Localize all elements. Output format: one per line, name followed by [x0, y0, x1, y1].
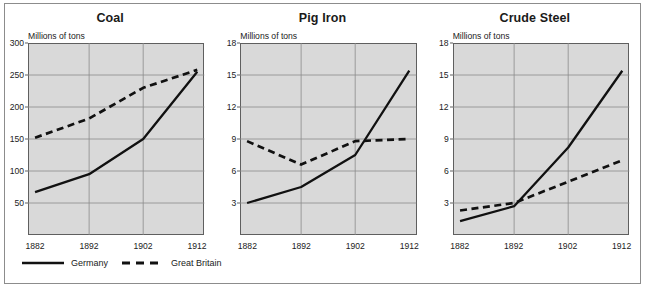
y-tick-label: 250 — [10, 70, 24, 80]
legend: Germany Great Britain — [22, 258, 222, 268]
x-tick-label: 1902 — [133, 241, 152, 251]
series-line-germany — [247, 71, 409, 203]
y-tick-label: 9 — [444, 134, 449, 144]
legend-line-solid-icon — [22, 261, 64, 265]
y-tick-label: 18 — [227, 38, 237, 48]
series-line-great-britain — [247, 139, 409, 165]
y-tick-label: 50 — [14, 198, 24, 208]
y-tick-label: 9 — [232, 134, 237, 144]
chart-panel-coal: Coal Millions of tons 501001502002503001… — [4, 3, 216, 243]
y-axis-unit-label-pig-iron: Millions of tons — [240, 31, 297, 41]
x-tick-label: 1912 — [187, 241, 206, 251]
plot-wrap-coal: 501001502002503001882189219021912 — [28, 43, 204, 235]
x-tick-label: 1882 — [238, 241, 257, 251]
y-tick-label: 3 — [232, 198, 237, 208]
y-tick-label: 6 — [444, 166, 449, 176]
plot-wrap-pig-iron: 3691215181882189219021912 — [240, 43, 416, 235]
x-tick-label: 1892 — [504, 241, 523, 251]
chart-title-crude-steel: Crude Steel — [429, 11, 641, 25]
chart-panel-crude-steel: Crude Steel Millions of tons 36912151818… — [429, 3, 641, 243]
y-tick-label: 150 — [10, 134, 24, 144]
plot-svg-crude-steel — [453, 43, 629, 235]
x-tick-label: 1882 — [450, 241, 469, 251]
chart-title-pig-iron: Pig Iron — [216, 11, 428, 25]
chart-panels: Coal Millions of tons 501001502002503001… — [4, 3, 641, 243]
legend-label-germany: Germany — [71, 258, 108, 268]
plot-wrap-crude-steel: 3691215181882189219021912 — [453, 43, 629, 235]
y-axis-unit-label-crude-steel: Millions of tons — [453, 31, 510, 41]
y-tick-label: 6 — [232, 166, 237, 176]
plot-svg-coal — [28, 43, 204, 235]
x-tick-label: 1892 — [292, 241, 311, 251]
x-tick-label: 1892 — [79, 241, 98, 251]
y-tick-label: 200 — [10, 102, 24, 112]
y-tick-label: 300 — [10, 38, 24, 48]
y-tick-label: 12 — [227, 102, 237, 112]
legend-item-germany: Germany — [22, 258, 108, 268]
x-tick-label: 1902 — [346, 241, 365, 251]
y-tick-label: 12 — [439, 102, 449, 112]
chart-panel-pig-iron: Pig Iron Millions of tons 36912151818821… — [216, 3, 428, 243]
legend-line-dashed-icon — [122, 261, 164, 265]
x-tick-label: 1882 — [25, 241, 44, 251]
x-tick-label: 1912 — [400, 241, 419, 251]
y-tick-label: 15 — [227, 70, 237, 80]
y-tick-label: 3 — [444, 198, 449, 208]
chart-title-coal: Coal — [4, 11, 216, 25]
series-line-germany — [35, 72, 197, 192]
figure-root: Coal Millions of tons 501001502002503001… — [0, 0, 646, 289]
y-tick-label: 18 — [439, 38, 449, 48]
y-axis-unit-label-coal: Millions of tons — [28, 31, 85, 41]
x-tick-label: 1912 — [612, 241, 631, 251]
x-tick-label: 1902 — [558, 241, 577, 251]
y-tick-label: 100 — [10, 166, 24, 176]
y-tick-label: 15 — [439, 70, 449, 80]
plot-svg-pig-iron — [240, 43, 416, 235]
legend-item-great-britain: Great Britain — [122, 258, 222, 268]
legend-label-great-britain: Great Britain — [171, 258, 222, 268]
series-line-germany — [460, 71, 622, 221]
